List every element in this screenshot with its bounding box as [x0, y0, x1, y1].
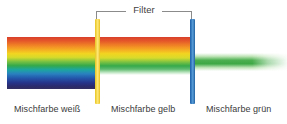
caption-mischfarbe-gruen: Mischfarbe grün — [206, 104, 271, 114]
spectrum-filter-diagram: Filter Mischfarbe weiß Mischfarbe gelb M… — [0, 0, 287, 124]
filter-label: Filter — [96, 4, 192, 15]
blue-filter-bar — [190, 19, 195, 104]
spectrum-band-white — [7, 37, 97, 89]
spectrum-band-yellow — [97, 37, 192, 75]
yellow-filter-bar — [95, 19, 100, 104]
caption-mischfarbe-weiss: Mischfarbe weiß — [14, 104, 80, 114]
spectrum-band-green-fade — [252, 51, 287, 73]
caption-mischfarbe-gelb: Mischfarbe gelb — [111, 104, 175, 114]
